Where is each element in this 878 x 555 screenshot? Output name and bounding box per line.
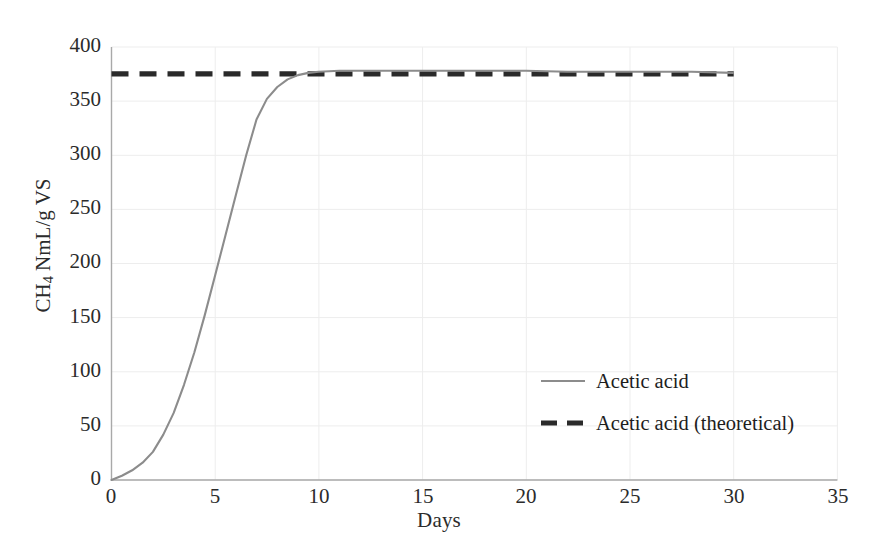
legend-item-acetic-acid-theoretical: Acetic acid (theoretical) — [541, 408, 841, 438]
legend-line-dashed-icon — [541, 416, 585, 430]
legend-line-solid-icon — [541, 374, 585, 388]
chart-figure: 400 350 300 250 200 150 100 50 0 0 5 10 … — [0, 0, 878, 555]
x-tick-5: 5 — [190, 484, 240, 509]
x-tick-0: 0 — [86, 484, 136, 509]
x-tick-10: 10 — [294, 484, 344, 509]
x-tick-30: 30 — [709, 484, 759, 509]
y-axis-title: CH4 NmL/g VS — [31, 115, 58, 375]
x-tick-20: 20 — [501, 484, 551, 509]
x-tick-25: 25 — [605, 484, 655, 509]
x-tick-35: 35 — [813, 484, 863, 509]
x-axis-title: Days — [0, 508, 878, 533]
y-tick-400: 400 — [41, 33, 101, 58]
y-tick-50: 50 — [41, 412, 101, 437]
y-tick-350: 350 — [41, 87, 101, 112]
legend-item-acetic-acid: Acetic acid — [541, 366, 841, 396]
plot-area — [0, 0, 878, 555]
x-tick-15: 15 — [398, 484, 448, 509]
legend-label-acetic-acid-theoretical: Acetic acid (theoretical) — [596, 412, 794, 435]
y-axis-title-text: CH4 NmL/g VS — [31, 179, 55, 313]
legend-label-acetic-acid: Acetic acid — [596, 370, 689, 393]
legend: Acetic acid Acetic acid (theoretical) — [541, 366, 841, 450]
